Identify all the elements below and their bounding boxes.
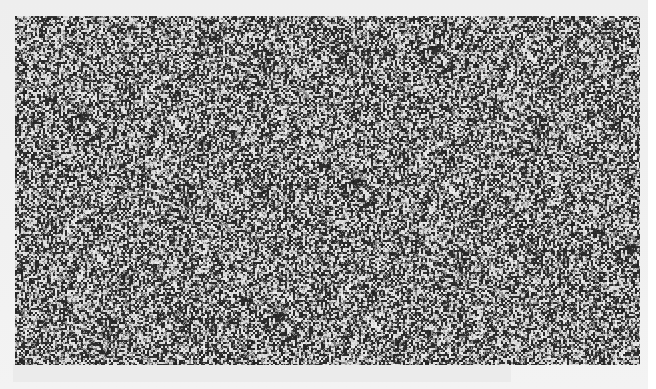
bottom-margin-band (13, 364, 511, 382)
random-dot-noise-panel (15, 16, 640, 365)
